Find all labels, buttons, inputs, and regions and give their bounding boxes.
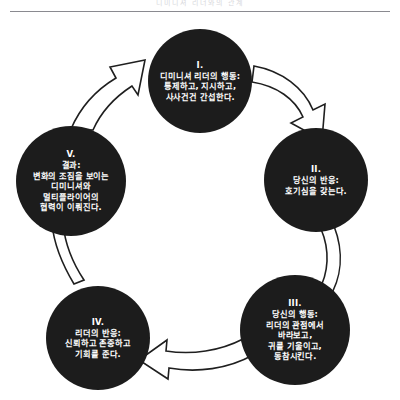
cycle-node-2-line-2: 호기심을 갖는다.: [268, 186, 364, 197]
cycle-node-5-line-1: 결과:: [20, 160, 122, 171]
cycle-node-1-line-1: 디미니셔 리더의 행동:: [152, 71, 248, 82]
diagram-page: 디미니셔 리더와의 관계: [0, 0, 400, 400]
cycle-node-5-line-5: 협력이 이뤄진다.: [20, 202, 122, 213]
cycle-node-3-line-2: 리더의 관점에서: [244, 320, 346, 331]
cycle-node-4-content: IV. 리더의 반응: 신뢰하고 존중하고 기회를 준다.: [46, 317, 150, 360]
cycle-node-2[interactable]: II. 당신의 반응: 호기심을 갖는다.: [264, 128, 368, 232]
cycle-node-5-content: V. 결과: 변화의 조짐을 보이는 디미니셔와 멀티플라이어의 협력이 이뤄진…: [16, 149, 126, 213]
cycle-node-1[interactable]: I. 디미니셔 리더의 행동: 통제하고, 지시하고, 사사건건 간섭한다.: [148, 29, 252, 133]
page-header: 디미니셔 리더와의 관계: [0, 0, 400, 16]
cycle-node-1-content: I. 디미니셔 리더의 행동: 통제하고, 지시하고, 사사건건 간섭한다.: [148, 60, 252, 103]
arrow-3-to-4: [139, 339, 253, 379]
cycle-node-3-roman: III.: [244, 298, 346, 309]
cycle-node-4-line-2: 신뢰하고 존중하고: [50, 338, 146, 349]
cycle-node-5[interactable]: V. 결과: 변화의 조짐을 보이는 디미니셔와 멀티플라이어의 협력이 이뤄진…: [16, 126, 126, 236]
cycle-node-1-roman: I.: [152, 60, 248, 71]
cycle-node-4[interactable]: IV. 리더의 반응: 신뢰하고 존중하고 기회를 준다.: [46, 286, 150, 390]
cycle-node-4-line-1: 리더의 반응:: [50, 328, 146, 339]
cycle-node-1-line-3: 사사건건 간섭한다.: [152, 92, 248, 103]
cycle-node-5-line-3: 디미니셔와: [20, 181, 122, 192]
cycle-node-5-roman: V.: [20, 149, 122, 160]
cycle-node-4-line-3: 기회를 준다.: [50, 349, 146, 360]
cycle-node-3[interactable]: III. 당신의 행동: 리더의 관점에서 바라보고, 귀를 기울이고, 동참시…: [240, 275, 350, 385]
cycle-node-5-line-4: 멀티플라이어의: [20, 192, 122, 203]
cycle-node-5-line-2: 변화의 조짐을 보이는: [20, 171, 122, 182]
cycle-node-4-roman: IV.: [50, 317, 146, 328]
running-head: 디미니셔 리더와의 관계: [0, 0, 400, 8]
cycle-node-3-line-3: 바라보고,: [244, 330, 346, 341]
header-divider-rule: [10, 11, 390, 12]
cycle-node-2-line-1: 당신의 반응:: [268, 175, 364, 186]
cycle-node-2-roman: II.: [268, 164, 364, 175]
cycle-diagram: I. 디미니셔 리더의 행동: 통제하고, 지시하고, 사사건건 간섭한다. I…: [0, 16, 400, 400]
cycle-node-1-line-2: 통제하고, 지시하고,: [152, 81, 248, 92]
cycle-node-3-line-1: 당신의 행동:: [244, 309, 346, 320]
cycle-node-2-content: II. 당신의 반응: 호기심을 갖는다.: [264, 164, 368, 196]
cycle-node-3-content: III. 당신의 행동: 리더의 관점에서 바라보고, 귀를 기울이고, 동참시…: [240, 298, 350, 362]
cycle-node-3-line-4: 귀를 기울이고,: [244, 341, 346, 352]
cycle-node-3-line-5: 동참시킨다.: [244, 351, 346, 362]
arrow-5-to-1: [71, 60, 145, 130]
